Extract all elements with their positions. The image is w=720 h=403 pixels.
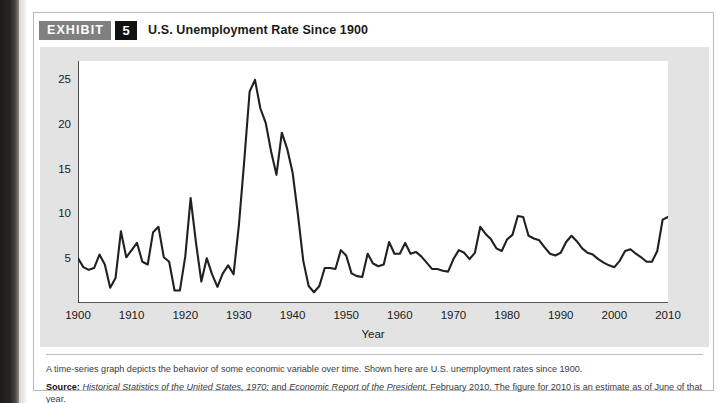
- y-tick-label: 10: [58, 207, 71, 219]
- footer-divider: [46, 354, 703, 355]
- plot-area: Unemployment rate (percent) Year 5101520…: [78, 61, 668, 303]
- x-tick-label: 1910: [119, 309, 145, 321]
- y-tick-label: 5: [65, 252, 71, 264]
- x-tick-label: 1960: [387, 309, 413, 321]
- y-tick-label: 15: [58, 163, 71, 175]
- exhibit-page: EXHIBIT 5 U.S. Unemployment Rate Since 1…: [0, 0, 720, 403]
- x-tick-label: 1950: [333, 309, 359, 321]
- unemployment-line-chart: [78, 61, 668, 303]
- x-tick-label: 1970: [441, 309, 467, 321]
- exhibit-number-badge: 5: [115, 21, 137, 40]
- page-scan-edge: [0, 0, 19, 403]
- page-title: U.S. Unemployment Rate Since 1900: [148, 23, 368, 37]
- x-tick-label: 1980: [494, 309, 520, 321]
- exhibit-header: EXHIBIT 5 U.S. Unemployment Rate Since 1…: [34, 13, 713, 47]
- exhibit-badge: EXHIBIT: [39, 21, 111, 40]
- x-tick-label: 1920: [172, 309, 198, 321]
- x-tick-label: 2010: [655, 309, 681, 321]
- exhibit-card: EXHIBIT 5 U.S. Unemployment Rate Since 1…: [33, 12, 714, 391]
- page-scan-edge-fade: [19, 0, 28, 403]
- x-axis-title: Year: [78, 328, 668, 340]
- source-title-1: Historical Statistics of the United Stat…: [82, 382, 269, 392]
- x-tick-label: 2000: [602, 309, 628, 321]
- x-tick-label: 1940: [280, 309, 306, 321]
- y-tick-label: 20: [58, 118, 71, 130]
- source-label: Source:: [46, 382, 80, 392]
- x-tick-label: 1900: [65, 309, 91, 321]
- figure-caption: A time-series graph depicts the behavior…: [46, 363, 703, 375]
- figure-source: Source: Historical Statistics of the Uni…: [46, 381, 703, 403]
- source-conjunction: and: [269, 382, 289, 392]
- y-tick-label: 25: [58, 73, 71, 85]
- x-tick-label: 1990: [548, 309, 574, 321]
- chart-frame: Unemployment rate (percent) Year 5101520…: [40, 47, 709, 347]
- source-title-2: Economic Report of the President,: [289, 382, 428, 392]
- x-tick-label: 1930: [226, 309, 252, 321]
